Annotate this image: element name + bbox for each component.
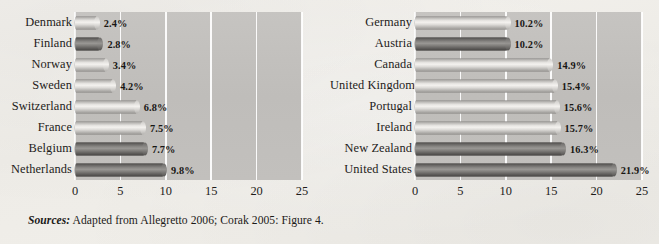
x-tick-label: 25 — [296, 184, 308, 199]
bar-value-label: 10.2% — [515, 38, 544, 49]
category-axis-labels-right: GermanyAustriaCanadaUnited KingdomPortug… — [330, 12, 412, 180]
bar-row: 2.8% — [75, 33, 302, 54]
bar — [75, 58, 106, 71]
bar-end-cap — [505, 37, 511, 50]
bar-end-cap — [161, 163, 167, 176]
bar — [415, 16, 508, 29]
bar — [415, 142, 563, 155]
x-axis-right: 0510152025 — [415, 184, 642, 202]
category-label: Switzerland — [0, 96, 72, 117]
x-tick-label: 15 — [205, 184, 217, 199]
bar — [415, 79, 555, 92]
source-note: Sources: Adapted from Allegretto 2006; C… — [28, 214, 324, 227]
bar-value-label: 15.6% — [564, 101, 593, 112]
category-label: Ireland — [330, 117, 412, 138]
bar-end-cap — [505, 16, 511, 29]
bar-end-cap — [97, 37, 103, 50]
chart-panel-right: GermanyAustriaCanadaUnited KingdomPortug… — [330, 0, 659, 244]
bar-end-cap — [142, 142, 148, 155]
bar-end-cap — [103, 58, 109, 71]
bar-row: 2.4% — [75, 12, 302, 33]
bar-value-label: 10.2% — [515, 17, 544, 28]
bar-row: 15.7% — [415, 117, 642, 138]
bar-row: 14.9% — [415, 54, 642, 75]
category-label: Sweden — [0, 75, 72, 96]
bar-end-cap — [94, 16, 100, 29]
x-tick-label: 10 — [160, 184, 172, 199]
bar — [75, 100, 137, 113]
x-tick-label: 5 — [457, 184, 463, 199]
category-label: United Kingdom — [330, 75, 412, 96]
bar-row: 15.6% — [415, 96, 642, 117]
x-tick-label: 20 — [250, 184, 262, 199]
category-label: United States — [330, 159, 412, 180]
bar-value-label: 15.7% — [565, 122, 594, 133]
bar — [75, 79, 113, 92]
bar-row: 7.7% — [75, 138, 302, 159]
bar-value-label: 9.8% — [171, 164, 195, 175]
bar-row: 4.2% — [75, 75, 302, 96]
bar-end-cap — [555, 121, 561, 134]
bar — [75, 163, 164, 176]
bar-end-cap — [110, 79, 116, 92]
bar — [415, 58, 550, 71]
bar-row: 15.4% — [415, 75, 642, 96]
bar — [415, 100, 557, 113]
bar-value-label: 3.4% — [113, 59, 137, 70]
bar-row: 9.8% — [75, 159, 302, 180]
category-label: Netherlands — [0, 159, 72, 180]
bar-value-label: 2.8% — [107, 38, 131, 49]
category-label: New Zealand — [330, 138, 412, 159]
x-tick-label: 0 — [412, 184, 418, 199]
bar-value-label: 15.4% — [562, 80, 591, 91]
x-axis-left: 0510152025 — [75, 184, 302, 202]
category-label: Canada — [330, 54, 412, 75]
bar-row: 10.2% — [415, 33, 642, 54]
bar — [415, 163, 614, 176]
bar-value-label: 21.9% — [621, 164, 650, 175]
bar-value-label: 7.7% — [152, 143, 176, 154]
category-label: Austria — [330, 33, 412, 54]
bar-end-cap — [552, 79, 558, 92]
bar — [415, 121, 558, 134]
bar-row: 3.4% — [75, 54, 302, 75]
bar-end-cap — [554, 100, 560, 113]
bar-row: 6.8% — [75, 96, 302, 117]
bar-value-label: 16.3% — [570, 143, 599, 154]
category-label: Norway — [0, 54, 72, 75]
bar-end-cap — [134, 100, 140, 113]
bar-value-label: 7.5% — [150, 122, 174, 133]
bar — [75, 16, 97, 29]
category-axis-labels-left: DenmarkFinlandNorwaySwedenSwitzerlandFra… — [0, 12, 72, 180]
bar — [75, 142, 145, 155]
bar-end-cap — [611, 163, 617, 176]
source-note-lead: Sources: — [28, 214, 70, 227]
category-label: Germany — [330, 12, 412, 33]
category-label: Finland — [0, 33, 72, 54]
category-label: France — [0, 117, 72, 138]
bar-end-cap — [140, 121, 146, 134]
x-tick-label: 20 — [590, 184, 602, 199]
bar-value-label: 14.9% — [557, 59, 586, 70]
bar-row: 21.9% — [415, 159, 642, 180]
bar-value-label: 2.4% — [104, 17, 128, 28]
bar — [75, 37, 100, 50]
bar-value-label: 4.2% — [120, 80, 144, 91]
bar-row: 7.5% — [75, 117, 302, 138]
bar — [75, 121, 143, 134]
x-tick-label: 0 — [72, 184, 78, 199]
chart-panel-left: DenmarkFinlandNorwaySwedenSwitzerlandFra… — [0, 0, 330, 244]
bar-end-cap — [560, 142, 566, 155]
bar-end-cap — [547, 58, 553, 71]
category-label: Denmark — [0, 12, 72, 33]
category-label: Portugal — [330, 96, 412, 117]
x-tick-label: 10 — [500, 184, 512, 199]
bar — [415, 37, 508, 50]
bar-row: 10.2% — [415, 12, 642, 33]
bar-row: 16.3% — [415, 138, 642, 159]
bar-value-label: 6.8% — [144, 101, 168, 112]
x-tick-label: 15 — [545, 184, 557, 199]
x-tick-label: 25 — [636, 184, 648, 199]
category-label: Belgium — [0, 138, 72, 159]
x-tick-label: 5 — [117, 184, 123, 199]
